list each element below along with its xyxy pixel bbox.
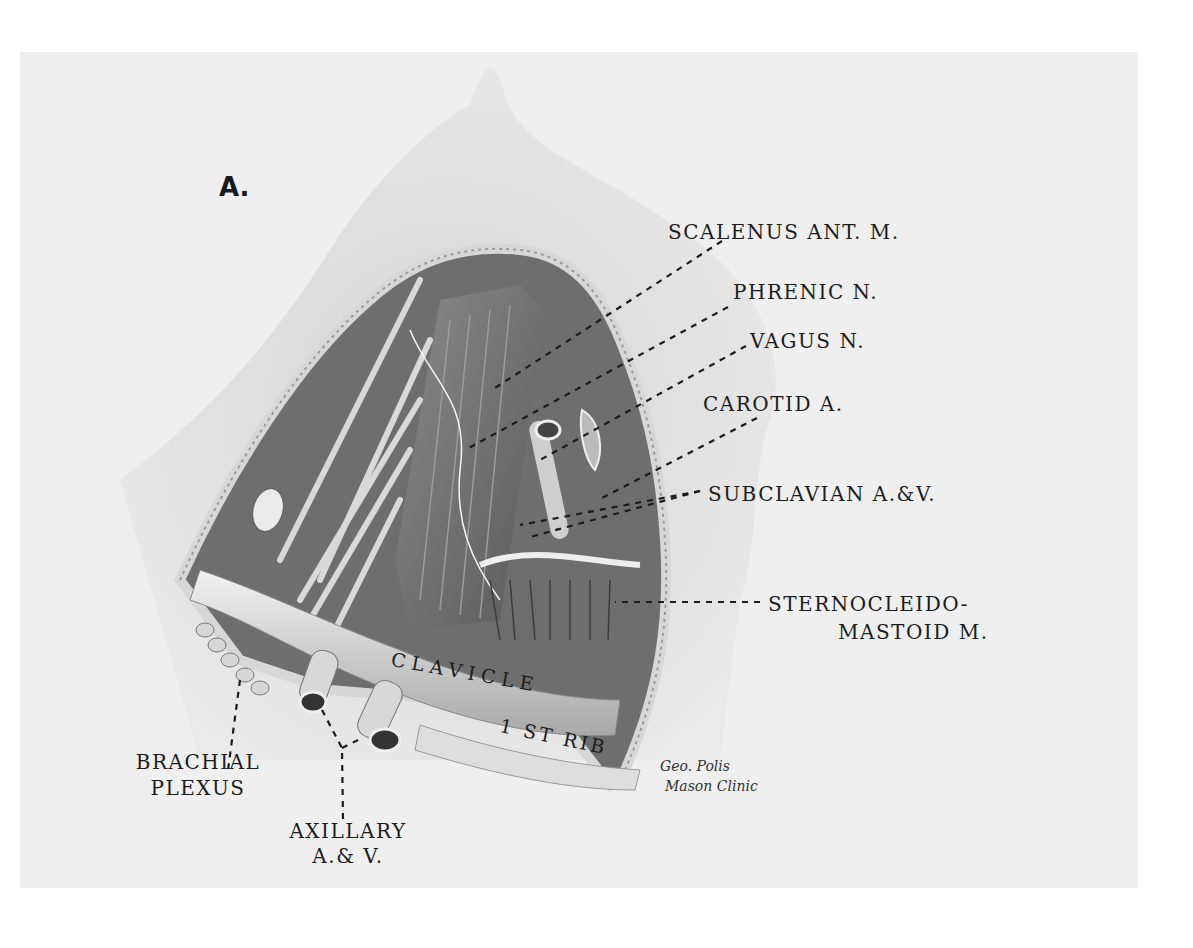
artist-signature-line1: Geo. Polis [660, 758, 730, 774]
label-subclavian: SUBCLAVIAN A.&V. [708, 484, 936, 504]
anatomical-illustration [0, 0, 1193, 948]
label-vagus-nerve: VAGUS N. [750, 331, 865, 351]
label-sternocleidomastoid-2: MASTOID M. [838, 622, 989, 642]
label-axillary-1: AXILLARY [248, 821, 448, 841]
panel-letter: A. [219, 172, 249, 202]
label-axillary-2: A.& V. [248, 846, 448, 866]
label-brachial-plexus-1: BRACHIAL [118, 752, 278, 772]
label-phrenic-nerve: PHRENIC N. [733, 282, 878, 302]
label-scalenus-anterior: SCALENUS ANT. M. [668, 222, 900, 242]
label-sternocleidomastoid-1: STERNOCLEIDO- [768, 594, 969, 614]
artist-signature-line2: Mason Clinic [665, 778, 758, 794]
label-carotid-artery: CAROTID A. [703, 394, 844, 414]
label-brachial-plexus-2: PLEXUS [118, 778, 278, 798]
